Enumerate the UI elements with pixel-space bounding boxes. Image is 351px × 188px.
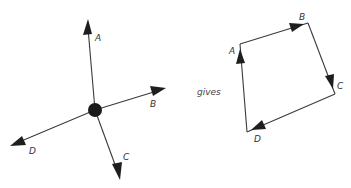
vector-b-label: B xyxy=(150,99,156,109)
polygon-label-c: C xyxy=(337,81,344,91)
concurrent-vectors: A B C D xyxy=(10,19,166,180)
polygon-label-d: D xyxy=(254,134,261,144)
polygon-label-a: A xyxy=(228,46,235,56)
vector-d-label: D xyxy=(29,146,36,156)
vector-d-arrowhead xyxy=(10,136,26,146)
vector-d-line xyxy=(19,110,95,142)
polygon-arrowhead-a xyxy=(236,49,245,64)
vector-c-label: C xyxy=(123,152,130,162)
vector-b-line xyxy=(95,91,157,110)
polygon-label-b: B xyxy=(299,12,305,22)
polygon-arrowhead-c xyxy=(325,74,334,89)
vector-a-line xyxy=(88,28,95,110)
polygon-arrowhead-d xyxy=(251,120,266,130)
vector-b-arrowhead xyxy=(150,86,166,96)
vector-c-arrowhead xyxy=(112,162,122,180)
vector-c-line xyxy=(95,110,117,170)
vector-a-arrowhead xyxy=(83,19,92,35)
point-of-action xyxy=(88,103,102,117)
polygon-arrowhead-b xyxy=(289,23,304,32)
vector-polygon-diagram: A B C D gives A B C D xyxy=(0,0,351,188)
gives-label: gives xyxy=(197,87,221,97)
vector-a-label: A xyxy=(94,33,101,43)
vector-polygon: A B C D xyxy=(228,12,344,144)
